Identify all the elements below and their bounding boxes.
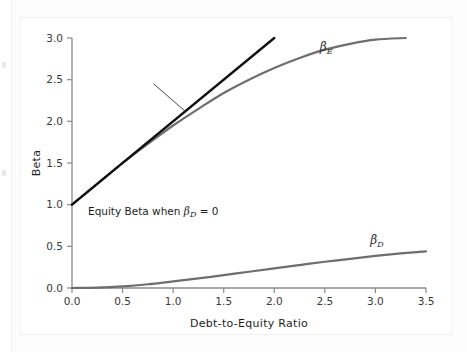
axes-group	[72, 38, 426, 288]
y-tick-label-4: 2.0	[46, 115, 63, 127]
y-axis-title: Beta	[30, 150, 43, 177]
x-tick-label-0: 0.0	[64, 295, 81, 307]
series-label-beta-e: βE	[319, 40, 333, 56]
x-tick-label-4: 2.0	[266, 295, 283, 307]
x-tick-label-5: 2.5	[317, 295, 334, 307]
x-tick-label-2: 1.0	[165, 295, 182, 307]
x-axis-title: Debt-to-Equity Ratio	[190, 317, 308, 330]
annotation-leader-line	[154, 84, 186, 112]
beta-vs-leverage-chart: 0.00.51.01.52.02.53.0 0.00.51.01.52.02.5…	[0, 0, 467, 352]
series-line-equity-beta-no-debt	[72, 38, 274, 205]
y-tick-label-1: 0.5	[46, 240, 63, 252]
y-tick-label-5: 2.5	[46, 73, 63, 85]
x-axis-ticks	[72, 288, 426, 293]
x-tick-label-6: 3.0	[367, 295, 384, 307]
y-tick-label-3: 1.5	[46, 157, 63, 169]
x-axis-tick-labels: 0.00.51.01.52.02.53.03.5	[64, 295, 435, 307]
y-axis-tick-labels: 0.00.51.01.52.02.53.0	[46, 32, 63, 294]
y-tick-label-2: 1.0	[46, 198, 63, 210]
y-tick-label-6: 3.0	[46, 32, 63, 44]
x-tick-label-3: 1.5	[215, 295, 232, 307]
y-axis-ticks	[67, 38, 72, 288]
series-line-beta-e	[72, 38, 406, 205]
annotation-equity-beta-no-debt: Equity Beta when βD = 0	[88, 205, 218, 220]
y-tick-label-0: 0.0	[46, 282, 63, 294]
data-series-group	[72, 38, 426, 288]
x-tick-label-1: 0.5	[114, 295, 131, 307]
series-label-beta-d: βD	[369, 233, 384, 249]
series-line-beta-d	[72, 251, 426, 288]
x-tick-label-7: 3.5	[418, 295, 435, 307]
figure-page: 0.00.51.01.52.02.53.0 0.00.51.01.52.02.5…	[0, 0, 467, 352]
